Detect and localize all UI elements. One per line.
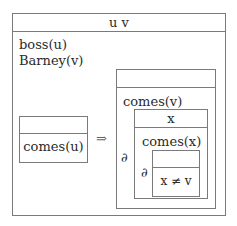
outer-condition-boss: boss(u) [19,37,67,52]
outer-drs-divider [13,31,225,32]
partial-operator-outer: ∂ [121,150,128,165]
antecedent-condition-comes-u: comes(u) [20,139,87,154]
nested-drs-x-referents: x [135,111,207,126]
consequent-drs-divider [117,87,215,88]
partial-operator-inner: ∂ [141,165,148,180]
nested-drs-x-divider [135,127,207,128]
outer-referents: u v [13,15,225,30]
antecedent-drs-divider [20,133,87,134]
nested-condition-comes-x: comes(x) [142,134,201,149]
consequent-condition-comes-v: comes(v) [123,94,182,109]
outer-condition-barney: Barney(v) [19,53,83,68]
innermost-drs-box: x ≠ v [152,150,200,197]
implication-arrow-icon: ⇒ [96,131,107,146]
antecedent-drs-box: comes(u) [19,116,88,163]
innermost-drs-divider [153,167,199,168]
innermost-condition-x-neq-v: x ≠ v [153,174,199,189]
